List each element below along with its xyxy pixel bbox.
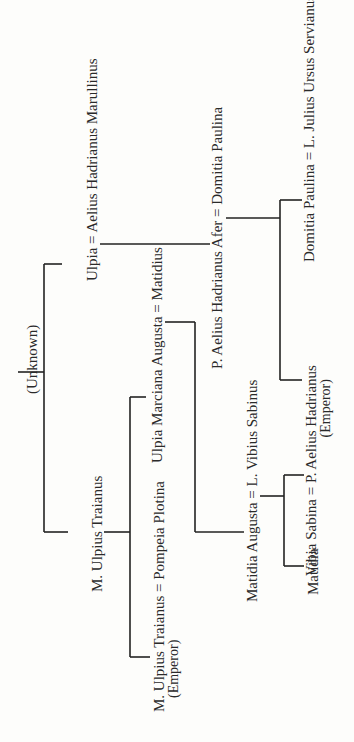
node-matidia: Matidia [306, 548, 321, 595]
node-domitia-couple: Domitia Paulina = L. Julius Ursus Servia… [302, 0, 317, 262]
node-matidia-label: Matidia [305, 548, 321, 595]
node-afer-couple-label: P. Aelius Hadrianus Afer = Domitia Pauli… [209, 107, 225, 369]
node-unknown: (Unknown) [25, 325, 40, 394]
node-matidia-augusta-couple-label: Matidia Augusta = L. Vibius Sabinus [244, 380, 260, 602]
node-ulpia-couple-label: Ulpia = Aelius Hadrianus Marullinus [84, 58, 100, 281]
node-trajan-couple: M. Ulpius Traianus = Pompeia Plotina (Em… [152, 481, 181, 712]
node-unknown-label: (Unknown) [24, 325, 40, 394]
node-hadrian-title-label: (Emperor) [319, 365, 333, 576]
node-trajan-title-label: (Emperor) [167, 481, 181, 712]
node-trajan-couple-label: M. Ulpius Traianus = Pompeia Plotina [151, 481, 167, 712]
node-marciana-couple-label: Ulpia Marciana Augusta = Matidius [149, 247, 165, 463]
node-matidia-augusta-couple: Matidia Augusta = L. Vibius Sabinus [245, 380, 260, 602]
node-marciana-couple: Ulpia Marciana Augusta = Matidius [150, 247, 165, 463]
node-ulpia-couple: Ulpia = Aelius Hadrianus Marullinus [85, 58, 100, 281]
node-domitia-couple-label: Domitia Paulina = L. Julius Ursus Servia… [301, 0, 317, 262]
node-hadrian-couple: Vibia Sabina = P. Aelius Hadrianus (Empe… [304, 365, 333, 576]
node-hadrian-couple-label: Vibia Sabina = P. Aelius Hadrianus [303, 365, 319, 576]
node-afer-couple: P. Aelius Hadrianus Afer = Domitia Pauli… [210, 107, 225, 369]
node-m-ulpius-traianus: M. Ulpius Traianus [90, 476, 105, 592]
node-m-ulpius-traianus-label: M. Ulpius Traianus [89, 476, 105, 592]
